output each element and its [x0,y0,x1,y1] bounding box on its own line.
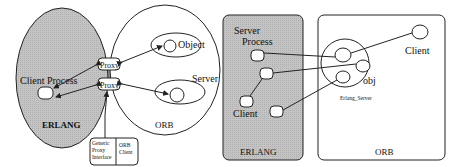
server-node [170,88,184,102]
orb-region [110,5,220,135]
es-node-1 [335,48,351,62]
legend-proxy: Proxy [92,147,105,153]
proxy-bottom-label: Proxy [100,81,119,90]
erlang-server-label: Erlang_Server [340,95,372,101]
client-process-label: Client Process [20,75,78,86]
legend-generic: Generic [92,140,110,146]
left-diagram: Client Process ERLANG ORB Proxy Proxy Ob… [16,5,220,165]
orb-label: ORB [155,120,174,130]
orb-label-right: ORB [375,147,394,157]
object-label: Object [178,39,205,50]
client-process-node [38,87,53,99]
server-process-label-2: Process [242,36,273,47]
erlang-node-4 [270,106,283,117]
orb-client-node [412,25,428,39]
server-process-label-1: Server [234,25,261,36]
es-node-obj [356,60,370,72]
client-orb-label: Client [405,45,430,56]
right-diagram: Server Process Client ERLANG ORB obj Erl… [223,15,445,160]
legend-orb: ORB [119,142,131,148]
server-label: Server [192,73,219,84]
server-process-node [251,50,264,61]
obj-label: obj [363,75,376,86]
diagram-canvas: Client Process ERLANG ORB Proxy Proxy Ob… [0,0,451,167]
erlang-node-2 [260,68,273,79]
erlang-label: ERLANG [42,120,81,130]
proxy-top-label: Proxy [100,61,119,70]
client-node [240,96,253,107]
erlang-label-right: ERLANG [240,147,277,157]
client-erlang-label: Client [233,108,258,119]
legend-interface: Interface [92,154,112,160]
object-node [164,40,176,52]
es-node-3 [336,71,350,83]
legend-client: Client [119,149,133,155]
